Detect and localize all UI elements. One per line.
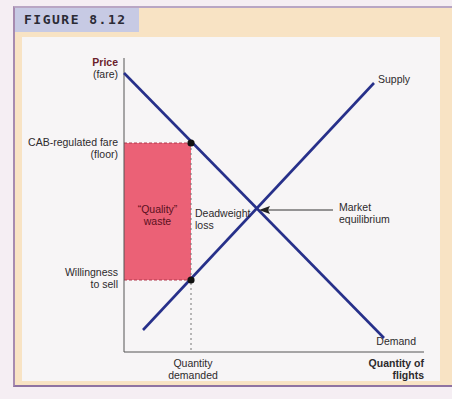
y-axis-label-line1: Price [70, 56, 118, 68]
deadweight-loss-label: Deadweight loss [195, 207, 250, 231]
deadweight-loss-label-line1: Deadweight [195, 207, 250, 219]
x-axis-label-line1: Quantity of [340, 357, 424, 369]
cab-fare-point [187, 139, 194, 146]
quality-waste-label-line2: waste [124, 215, 191, 227]
cab-fare-label: CAB-regulated fare (floor) [10, 136, 118, 160]
quality-waste-label: “Quality” waste [124, 203, 191, 227]
market-equilibrium-label: Market equilibrium [339, 201, 390, 225]
quantity-demanded-label-line1: Quantity [168, 357, 218, 369]
supply-label: Supply [378, 73, 410, 85]
willingness-point [187, 276, 194, 283]
quality-waste-label-line1: “Quality” [124, 203, 191, 215]
quantity-demanded-label-line2: demanded [168, 369, 218, 381]
market-equilibrium-label-line1: Market [339, 201, 390, 213]
willingness-label-line2: to sell [30, 278, 118, 290]
y-axis-label-sub: (fare) [70, 68, 118, 80]
willingness-label-line1: Willingness [30, 266, 118, 278]
cab-fare-label-line2: (floor) [10, 148, 118, 160]
demand-label: Demand [360, 335, 416, 347]
x-axis-label: Quantity of flights [340, 357, 424, 381]
quantity-demanded-label: Quantity demanded [168, 357, 218, 381]
market-equilibrium-label-line2: equilibrium [339, 213, 390, 225]
cab-fare-label-line1: CAB-regulated fare [10, 136, 118, 148]
y-axis-label: Price [70, 56, 118, 68]
x-axis-label-line2: flights [340, 369, 424, 381]
y-axis-label-line2: (fare) [70, 68, 118, 80]
deadweight-loss-label-line2: loss [195, 219, 250, 231]
willingness-label: Willingness to sell [30, 266, 118, 290]
